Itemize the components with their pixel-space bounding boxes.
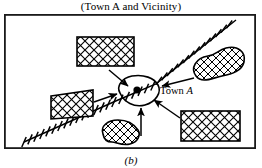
figure-town-a-and-vicinity: (Town A and Vicinity) [0,0,262,168]
map-canvas: Town A [4,14,256,149]
region-bottom-right [181,111,240,141]
town-a-label: Town A [160,85,193,96]
figure-title: (Town A and Vicinity) [0,0,262,13]
map-frame: Town A [4,14,256,149]
region-top-center [77,37,134,66]
region-left [51,90,93,119]
figure-caption: (b) [0,152,262,168]
town-dot [133,86,140,93]
